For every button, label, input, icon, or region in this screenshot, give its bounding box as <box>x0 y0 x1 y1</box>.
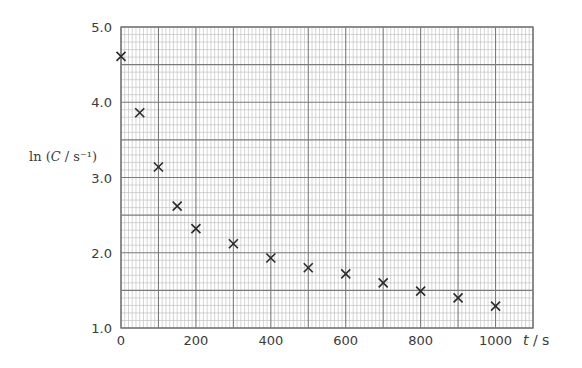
x-tick-label: 0 <box>117 333 125 348</box>
x-tick-label: 400 <box>258 333 283 348</box>
x-tick-label: 600 <box>333 333 358 348</box>
y-tick-label: 3.0 <box>91 171 112 186</box>
y-tick-label: 4.0 <box>91 95 112 110</box>
x-tick-label: 800 <box>408 333 433 348</box>
y-tick-label: 5.0 <box>91 20 112 35</box>
y-tick-label: 2.0 <box>91 246 112 261</box>
y-axis-label: ln (C / s⁻¹) <box>29 149 97 164</box>
x-tick-label: 200 <box>183 333 208 348</box>
chart-canvas: 1.02.03.04.05.0 02004006008001000 ln (C … <box>0 0 582 368</box>
y-axis-tick-labels: 1.02.03.04.05.0 <box>91 20 112 336</box>
y-tick-label: 1.0 <box>91 321 112 336</box>
x-axis-tick-labels: 02004006008001000 <box>117 333 512 348</box>
x-axis-label: t / s <box>523 332 549 348</box>
x-tick-label: 1000 <box>479 333 512 348</box>
